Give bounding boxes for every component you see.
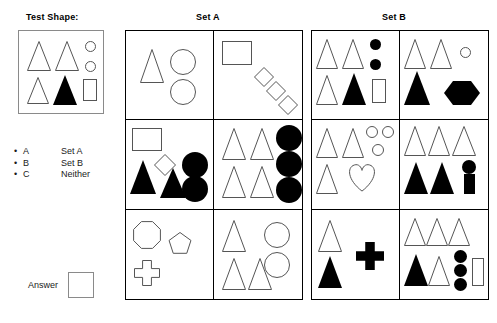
triangle-shape	[140, 49, 164, 83]
circle-shape	[264, 222, 290, 248]
triangle-shape	[426, 218, 448, 246]
triangle-shape	[342, 73, 366, 105]
triangle-shape	[318, 256, 342, 288]
rect-shape	[83, 79, 97, 101]
circle-shape	[182, 152, 208, 178]
triangle-shape	[316, 75, 338, 105]
set-a-cell-4	[214, 120, 302, 209]
circle-shape	[460, 47, 471, 58]
hexagon-shape	[444, 79, 480, 107]
legend-item-a: • A Set A	[14, 146, 90, 158]
circle-shape	[366, 126, 378, 138]
legend-bullet-icon: •	[14, 158, 23, 170]
triangle-shape	[404, 39, 426, 69]
set-b-label: Set B	[382, 12, 406, 22]
legend-value-a: Set A	[61, 146, 83, 158]
triangle-shape	[318, 220, 342, 252]
circle-shape	[170, 79, 196, 105]
circle-shape	[276, 151, 302, 177]
legend-value-c: Neither	[61, 169, 90, 181]
circle-shape	[85, 61, 96, 72]
set-a-cell-1	[126, 31, 214, 120]
octagon-shape	[132, 220, 162, 250]
triangle-shape	[404, 218, 426, 246]
triangle-shape	[248, 258, 272, 290]
triangle-shape	[316, 39, 338, 69]
triangle-shape	[404, 162, 428, 194]
set-b-cell-6	[400, 210, 488, 299]
set-a-grid	[125, 30, 303, 300]
legend-key-b: B	[23, 158, 61, 170]
cross-shape	[356, 242, 384, 270]
circle-shape	[370, 59, 381, 70]
triangle-shape	[342, 39, 364, 69]
set-b-cell-2	[400, 31, 488, 120]
rect-shape	[372, 79, 386, 103]
test-shape-label: Test Shape:	[26, 12, 79, 22]
triangle-shape	[316, 164, 338, 194]
triangle-shape	[404, 126, 426, 156]
triangle-shape	[53, 75, 77, 105]
legend-item-b: • B Set B	[14, 158, 90, 170]
circle-shape	[85, 41, 96, 52]
triangle-shape	[430, 39, 452, 69]
triangle-shape	[250, 128, 274, 160]
triangle-shape	[404, 71, 430, 105]
triangle-shape	[222, 128, 246, 160]
triangle-shape	[428, 126, 450, 156]
triangle-shape	[430, 162, 454, 194]
rect-shape	[222, 41, 252, 65]
rect-shape	[472, 258, 484, 286]
triangle-shape	[448, 218, 470, 246]
set-b-grid	[311, 30, 489, 300]
legend-bullet-icon: •	[14, 169, 23, 181]
triangle-shape	[222, 220, 246, 252]
set-a-cell-6	[214, 210, 302, 299]
triangle-shape	[452, 126, 476, 156]
circle-shape	[372, 144, 384, 156]
legend-bullet-icon: •	[14, 146, 23, 158]
set-a-cell-5	[126, 210, 214, 299]
circle-shape	[454, 278, 467, 291]
legend-value-b: Set B	[61, 158, 83, 170]
set-a-label: Set A	[196, 12, 220, 22]
legend-key-a: A	[23, 146, 61, 158]
set-b-cell-5	[312, 210, 400, 299]
circle-shape	[276, 177, 302, 203]
triangle-shape	[27, 41, 51, 71]
triangle-shape	[428, 256, 450, 286]
circle-shape	[276, 125, 302, 151]
triangle-shape	[250, 166, 274, 198]
heart-shape	[346, 162, 378, 192]
rect-shape	[132, 128, 162, 151]
circle-shape	[382, 126, 394, 138]
circle-shape	[170, 49, 196, 75]
triangle-shape	[316, 128, 338, 158]
circle-shape	[462, 160, 476, 174]
diamond-shape	[278, 95, 298, 115]
answer-row: Answer	[28, 272, 94, 298]
triangle-shape	[222, 166, 246, 198]
set-b-cell-1	[312, 31, 400, 120]
legend-key-c: C	[23, 169, 61, 181]
answer-input[interactable]	[68, 272, 94, 298]
triangle-shape	[27, 77, 49, 104]
rect-shape	[464, 174, 475, 194]
set-a-cell-3	[126, 120, 214, 209]
legend-item-c: • C Neither	[14, 169, 90, 181]
set-a-cell-2	[214, 31, 302, 120]
triangle-shape	[404, 254, 428, 286]
legend: • A Set A • B Set B • C Neither	[14, 146, 90, 181]
circle-shape	[454, 264, 467, 277]
puzzle-canvas: Test Shape: Set A Set B • A Set A • B Se…	[0, 0, 497, 323]
set-b-cell-3	[312, 120, 400, 209]
pentagon-shape	[168, 232, 192, 256]
circle-shape	[454, 250, 467, 263]
test-shape-panel	[18, 30, 104, 114]
triangle-shape	[342, 128, 364, 158]
circle-shape	[182, 176, 208, 202]
circle-shape	[370, 39, 381, 50]
answer-label: Answer	[28, 280, 58, 290]
set-b-cell-4	[400, 120, 488, 209]
triangle-shape	[55, 41, 79, 71]
